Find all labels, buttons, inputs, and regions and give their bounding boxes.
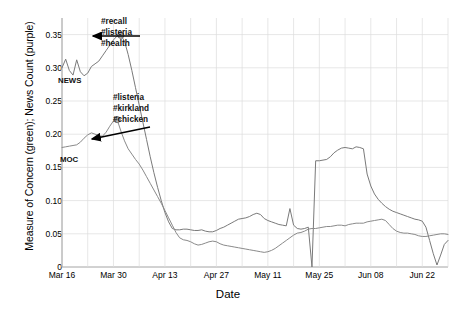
annotation-line: #health	[101, 39, 132, 50]
moc-peak-annotation-arrow	[92, 127, 150, 139]
news-peak-annotation: #recall#listeria#health	[101, 17, 132, 50]
series-line-moc	[62, 120, 448, 253]
moc-peak-annotation: #listeria#kirkland#chicken	[113, 93, 149, 126]
moc-series-label: MOC	[60, 155, 78, 164]
series-line-news	[62, 35, 448, 267]
annotation-line: #chicken	[113, 115, 149, 126]
gridlines	[62, 18, 448, 267]
chart-figure: Measure of Concern (green); News Count (…	[0, 0, 456, 309]
annotation-line: #recall	[101, 17, 132, 28]
annotation-line: #kirkland	[113, 104, 149, 115]
annotation-line: #listeria	[113, 93, 149, 104]
news-series-label: NEWS	[58, 76, 81, 85]
annotation-line: #listeria	[101, 28, 132, 39]
